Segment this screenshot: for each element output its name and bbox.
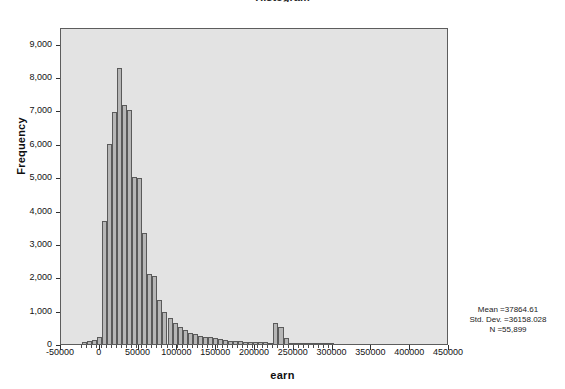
histogram-bar <box>329 343 334 344</box>
x-axis-minor-tick-mark <box>323 345 324 348</box>
stat-mean: Mean =37864.61 <box>452 305 564 315</box>
x-axis-minor-tick-mark <box>161 345 162 348</box>
x-axis-minor-tick-mark <box>96 345 97 348</box>
x-axis-minor-tick-mark <box>247 345 248 348</box>
stat-std-dev: Std. Dev. =36158.028 <box>452 315 564 325</box>
x-axis-tick-mark <box>254 345 255 350</box>
x-axis-minor-tick-mark <box>126 345 127 348</box>
x-axis-minor-tick-mark <box>232 345 233 348</box>
x-axis-minor-tick-mark <box>308 345 309 348</box>
x-axis-minor-tick-mark <box>156 345 157 348</box>
chart-title: Histogram <box>0 0 565 2</box>
x-axis-minor-tick-mark <box>313 345 314 348</box>
x-axis-tick-mark <box>138 345 139 350</box>
y-axis-tick-label: 9,000 <box>6 40 52 49</box>
statistics-annotation: Mean =37864.61 Std. Dev. =36158.028 N =5… <box>452 305 564 336</box>
x-axis-minor-tick-mark <box>202 345 203 348</box>
x-axis-minor-tick-mark <box>217 345 218 348</box>
x-axis-minor-tick-mark <box>182 345 183 348</box>
x-axis-minor-tick-mark <box>272 345 273 348</box>
x-axis-minor-tick-mark <box>222 345 223 348</box>
y-axis-tick-label: 4,000 <box>6 207 52 216</box>
x-axis-minor-tick-mark <box>288 345 289 348</box>
x-axis-minor-tick-mark <box>212 345 213 348</box>
x-axis-tick-mark <box>332 345 333 350</box>
y-axis-tick-label: 3,000 <box>6 240 52 249</box>
x-axis-minor-tick-mark <box>252 345 253 348</box>
x-axis-minor-tick-mark <box>187 345 188 348</box>
x-axis-minor-tick-mark <box>207 345 208 348</box>
bars-container <box>61 29 447 344</box>
y-axis-tick-label: 2,000 <box>6 273 52 282</box>
y-axis-tick-label: 1,000 <box>6 307 52 316</box>
x-axis-minor-tick-mark <box>81 345 82 348</box>
x-axis-title: earn <box>0 369 565 381</box>
y-axis-tick-label: 8,000 <box>6 73 52 82</box>
x-axis-minor-tick-mark <box>136 345 137 348</box>
x-axis-minor-tick-mark <box>257 345 258 348</box>
x-axis-minor-tick-mark <box>116 345 117 348</box>
x-axis-minor-tick-mark <box>86 345 87 348</box>
x-axis-minor-tick-mark <box>262 345 263 348</box>
x-axis-minor-tick-mark <box>106 345 107 348</box>
x-axis-minor-tick-mark <box>177 345 178 348</box>
x-axis-minor-tick-mark <box>141 345 142 348</box>
x-axis-minor-tick-mark <box>151 345 152 348</box>
x-axis-minor-tick-mark <box>303 345 304 348</box>
x-axis-minor-tick-mark <box>328 345 329 348</box>
x-axis-minor-tick-mark <box>237 345 238 348</box>
x-axis-minor-tick-mark <box>267 345 268 348</box>
x-axis-tick-mark <box>99 345 100 350</box>
x-axis-minor-tick-mark <box>283 345 284 348</box>
x-axis-minor-tick-mark <box>91 345 92 348</box>
x-axis-minor-tick-mark <box>131 345 132 348</box>
x-axis-minor-tick-mark <box>167 345 168 348</box>
x-axis-minor-tick-mark <box>227 345 228 348</box>
x-axis-tick-mark <box>370 345 371 350</box>
x-axis-minor-tick-mark <box>172 345 173 348</box>
x-axis-tick-mark <box>448 345 449 350</box>
x-axis-minor-tick-mark <box>293 345 294 348</box>
x-axis-minor-tick-mark <box>192 345 193 348</box>
y-axis-tick-label: 7,000 <box>6 106 52 115</box>
x-axis-minor-tick-mark <box>111 345 112 348</box>
y-axis-tick-label: 5,000 <box>6 173 52 182</box>
x-axis-minor-tick-mark <box>242 345 243 348</box>
x-axis-minor-tick-mark <box>146 345 147 348</box>
x-axis-minor-tick-mark <box>121 345 122 348</box>
x-axis-minor-tick-mark <box>298 345 299 348</box>
x-axis-minor-tick-mark <box>277 345 278 348</box>
x-axis-tick-mark <box>409 345 410 350</box>
x-axis-minor-tick-mark <box>197 345 198 348</box>
plot-area <box>60 28 448 345</box>
x-axis-minor-tick-mark <box>101 345 102 348</box>
y-axis-tick-label: 6,000 <box>6 140 52 149</box>
x-axis-minor-tick-mark <box>318 345 319 348</box>
stat-n: N =55,899 <box>452 325 564 335</box>
x-axis-tick-mark <box>60 345 61 350</box>
